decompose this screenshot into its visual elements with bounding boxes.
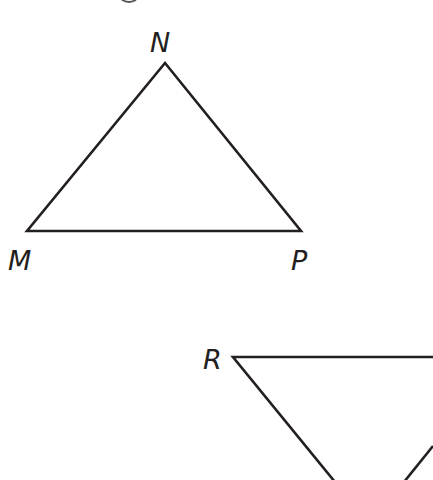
cropped-glyph xyxy=(122,0,136,2)
triangle-r-left-edges xyxy=(233,357,433,480)
vertex-label-m: M xyxy=(8,245,31,276)
triangle-r-right-edge xyxy=(404,446,433,480)
vertex-label-p: P xyxy=(291,245,308,276)
triangle-mnp xyxy=(27,63,301,231)
vertex-label-n: N xyxy=(150,27,170,58)
vertex-label-r: R xyxy=(203,344,222,375)
geometry-diagram: N M P R xyxy=(0,0,433,480)
